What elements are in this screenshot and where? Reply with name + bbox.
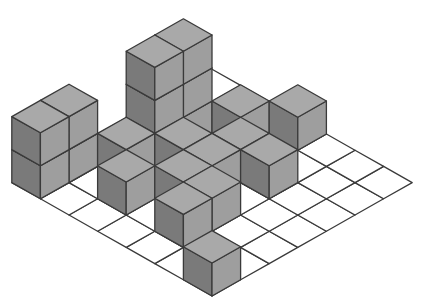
isometric-cube-diagram: [0, 0, 425, 307]
